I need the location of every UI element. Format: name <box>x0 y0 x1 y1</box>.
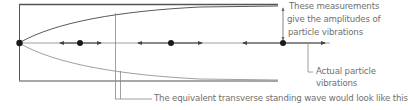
particle-node <box>16 40 22 46</box>
upper-envelope <box>19 6 278 43</box>
transverse-callout-line <box>115 13 152 99</box>
transverse-wave-label: The equivalent transverse standing wave … <box>154 93 408 104</box>
actual-vibration-label-line2: vibrations <box>316 78 357 89</box>
lower-envelope <box>19 43 278 80</box>
actual-vibration-callout-line <box>308 44 313 72</box>
amplitude-label-line1: These measurements <box>289 1 379 12</box>
amplitude-label-line2: give the amplitudes of <box>287 14 380 25</box>
amplitude-label-line3: particle vibrations <box>288 27 363 38</box>
actual-vibration-label-line1: Actual particle <box>316 66 376 77</box>
particle <box>280 40 286 46</box>
particle <box>77 40 83 46</box>
particle <box>168 40 174 46</box>
